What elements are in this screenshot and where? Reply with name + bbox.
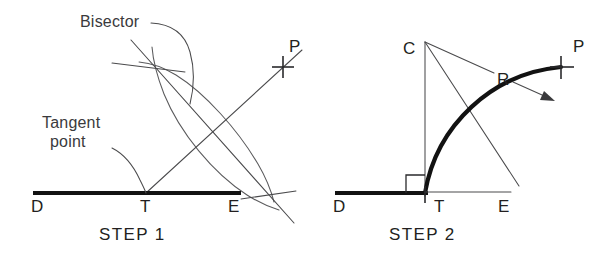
right-angle-symbol	[406, 175, 425, 193]
construction-diagram: Bisector Tangent point D T E P STEP 1	[0, 0, 614, 259]
bisector-label: Bisector	[80, 13, 140, 30]
radius-arrowhead	[540, 91, 555, 101]
label-P-step2: P	[573, 37, 585, 56]
point-P-marker-step2	[550, 56, 574, 79]
step2-caption: STEP 2	[389, 225, 456, 244]
upper-intersection-whisker	[112, 63, 185, 72]
tangent-arc	[425, 67, 561, 193]
label-E-step2: E	[498, 197, 510, 216]
label-T-step2: T	[434, 197, 445, 216]
label-R-step2: R	[497, 70, 510, 89]
label-P-step1: P	[289, 37, 301, 56]
tangent-point-leader-line	[112, 148, 146, 193]
label-E-step1: E	[228, 197, 240, 216]
lower-intersection-whisker	[241, 191, 296, 199]
tangent-label-line1: Tangent	[42, 114, 101, 131]
label-T-step1: T	[140, 197, 151, 216]
step2-group: C R P D T E STEP 2	[333, 37, 585, 244]
figure-canvas: Bisector Tangent point D T E P STEP 1	[0, 0, 614, 259]
bisector-leader-line	[151, 23, 193, 104]
step1-group: Bisector Tangent point D T E P STEP 1	[31, 13, 302, 244]
step1-caption: STEP 1	[99, 225, 166, 244]
label-C-step2: C	[403, 39, 416, 58]
tangent-label-line2: point	[50, 133, 86, 150]
label-D-step1: D	[31, 197, 44, 216]
label-D-step2: D	[333, 197, 346, 216]
